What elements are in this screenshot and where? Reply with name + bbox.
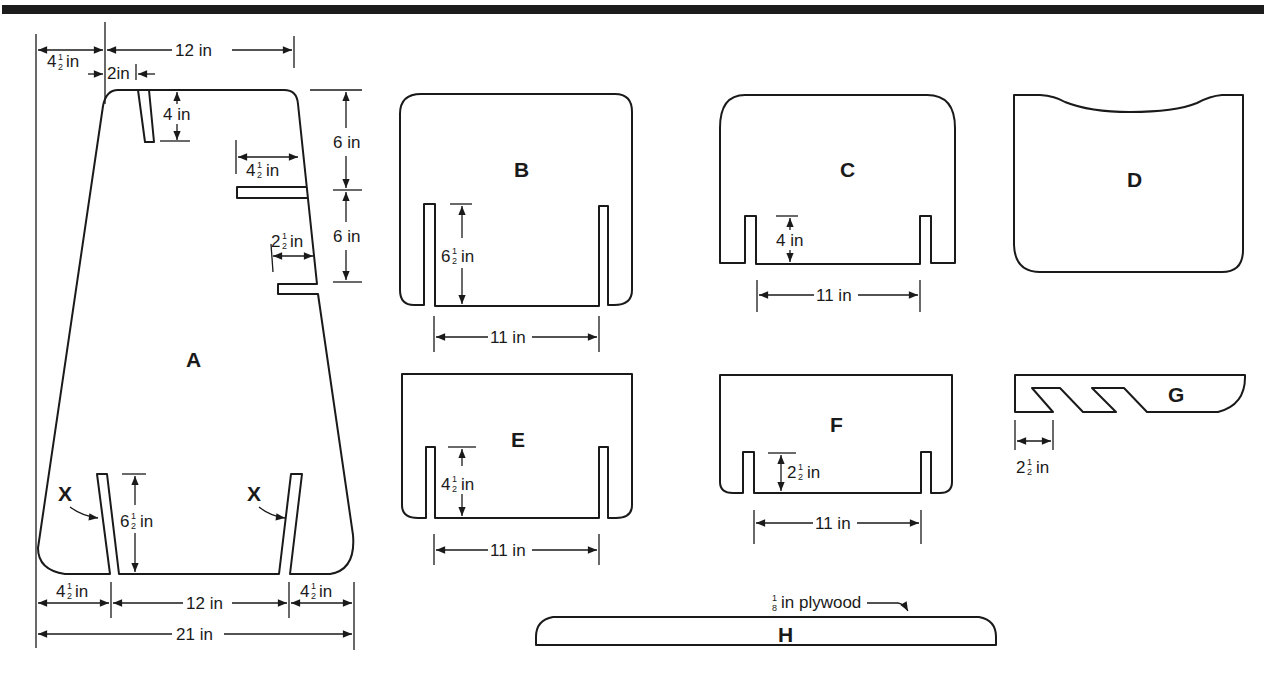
- svg-text:1: 1: [282, 231, 287, 241]
- dim-a-side-lower: 6 in: [333, 227, 360, 246]
- svg-text:1: 1: [58, 52, 63, 62]
- svg-text:1: 1: [452, 474, 457, 484]
- svg-text:1: 1: [67, 581, 72, 591]
- svg-text:in: in: [290, 232, 303, 251]
- part-label-b: B: [514, 158, 529, 181]
- svg-text:in: in: [140, 512, 153, 531]
- part-a-side-slot-upper: [237, 187, 307, 198]
- svg-text:in: in: [1036, 458, 1049, 477]
- dim-g-notch-width: 2: [1016, 458, 1025, 477]
- svg-text:2: 2: [1027, 467, 1032, 477]
- dim-a-bottom-left: 4: [56, 582, 65, 601]
- part-g-outline: [1015, 375, 1245, 412]
- part-label-d: D: [1127, 168, 1142, 191]
- dim-a-top-slot-depth: 4 in: [163, 105, 190, 124]
- part-label-a: A: [186, 348, 201, 371]
- dim-a-top-width: 12 in: [175, 41, 212, 60]
- part-label-e: E: [511, 428, 525, 451]
- part-d: D: [1014, 95, 1243, 272]
- svg-text:8: 8: [772, 603, 777, 613]
- svg-text:2: 2: [58, 62, 63, 72]
- svg-text:1: 1: [452, 246, 457, 256]
- part-a: 12 in 4 1 2 in 2in 4 in 6 in 6 in 4 1 2 …: [36, 22, 362, 650]
- part-c-outline: [720, 95, 955, 264]
- callout-x-right: X: [247, 482, 261, 505]
- dim-c-slot-spacing: 11 in: [816, 286, 852, 305]
- callout-x-left: X: [58, 482, 72, 505]
- svg-text:1: 1: [311, 581, 316, 591]
- part-e: E 4 1 2 in 11 in: [402, 374, 632, 565]
- dim-a-side-slot-upper: 4: [246, 161, 255, 180]
- part-h-outline: [536, 617, 996, 645]
- svg-text:2: 2: [131, 521, 136, 531]
- svg-text:1: 1: [257, 160, 262, 170]
- svg-text:in: in: [807, 463, 820, 482]
- dim-a-bottom-middle: 12 in: [186, 594, 223, 613]
- svg-text:1: 1: [131, 511, 136, 521]
- svg-text:in: in: [319, 582, 332, 601]
- part-label-c: C: [840, 158, 855, 181]
- dim-e-slot-spacing: 11 in: [490, 541, 526, 560]
- dim-b-slot-spacing: 11 in: [490, 328, 526, 347]
- dim-f-slot-spacing: 11 in: [815, 514, 851, 533]
- svg-text:in: in: [461, 475, 474, 494]
- part-b-outline: [400, 94, 632, 306]
- part-h: H 1 8 in plywood: [536, 593, 996, 646]
- part-c: C 4 in 11 in: [720, 95, 955, 312]
- dim-e-slot-height: 4: [441, 475, 450, 494]
- svg-text:in: in: [66, 52, 79, 71]
- dim-a-side-slot-lower: 2: [271, 232, 280, 251]
- part-b: B 6 1 2 in 11 in: [400, 94, 632, 352]
- part-label-f: F: [830, 413, 843, 436]
- dim-a-top-left: 4: [47, 52, 56, 71]
- svg-text:1: 1: [772, 593, 777, 603]
- dim-b-slot-height: 6: [441, 247, 450, 266]
- part-label-h: H: [778, 623, 793, 646]
- svg-text:2: 2: [257, 170, 262, 180]
- dim-f-slot-height: 2: [787, 463, 796, 482]
- svg-text:2: 2: [67, 591, 72, 601]
- svg-text:2: 2: [282, 241, 287, 251]
- svg-text:in: in: [75, 582, 88, 601]
- dim-a-bottom-slot: 6: [120, 512, 129, 531]
- dim-a-total-width: 21 in: [176, 625, 213, 644]
- svg-text:2: 2: [311, 591, 316, 601]
- svg-text:2: 2: [452, 256, 457, 266]
- part-a-top-slot: [138, 90, 154, 142]
- part-a-outline: [38, 90, 353, 574]
- dim-a-bottom-right: 4: [300, 582, 309, 601]
- svg-text:in: in: [461, 247, 474, 266]
- svg-text:2: 2: [452, 484, 457, 494]
- material-note: in plywood: [781, 593, 861, 612]
- part-label-g: G: [1168, 383, 1184, 406]
- svg-text:2: 2: [798, 472, 803, 482]
- svg-text:1: 1: [1027, 457, 1032, 467]
- dim-a-slot-offset: 2in: [107, 64, 130, 83]
- part-g: G 2 1 2 in: [1015, 375, 1245, 477]
- material-note-arrow: [867, 603, 908, 611]
- dim-a-side-upper: 6 in: [333, 133, 360, 152]
- svg-text:in: in: [266, 161, 279, 180]
- dim-c-slot-height: 4 in: [776, 231, 803, 250]
- svg-text:1: 1: [798, 462, 803, 472]
- part-f: F 2 1 2 in 11 in: [720, 375, 952, 544]
- parts-drawing: 12 in 4 1 2 in 2in 4 in 6 in 6 in 4 1 2 …: [0, 0, 1271, 676]
